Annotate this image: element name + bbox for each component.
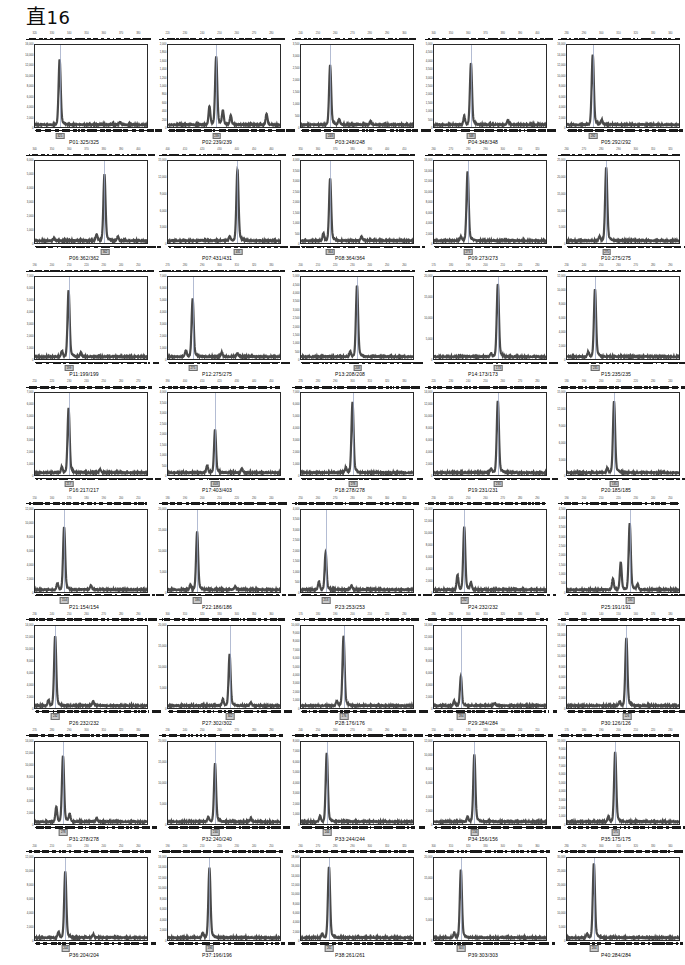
electropherogram-panel[interactable]: 1902002102202302402504,5004,0003,5003,00… xyxy=(552,498,680,612)
ruler-tick-label: 370 xyxy=(84,148,88,151)
trace-plot[interactable] xyxy=(301,392,414,476)
electropherogram-panel[interactable]: 28029030031032033034014,00012,00010,0008… xyxy=(419,614,547,728)
trace-plot[interactable] xyxy=(567,276,680,360)
electropherogram-panel[interactable]: 27028029030031032033014,00012,00010,0008… xyxy=(20,730,148,844)
trace-plot[interactable] xyxy=(434,625,547,709)
y-axis-tick-label: 10,000 xyxy=(291,623,299,626)
trace-plot[interactable] xyxy=(567,44,680,128)
trace-plot[interactable] xyxy=(434,44,547,128)
electropherogram-panel[interactable]: 15016017018019020021012,00010,0008,0006,… xyxy=(419,730,547,844)
trace-plot[interactable] xyxy=(35,625,148,709)
electropherogram-panel[interactable]: 26027028029030031032018,00016,00014,0001… xyxy=(286,846,414,960)
trace-plot[interactable] xyxy=(567,857,680,941)
electropherogram-panel[interactable]: 26027028029030031032016,00014,00012,0001… xyxy=(419,149,547,263)
electropherogram-panel[interactable]: 3403503603703803904005,0004,5004,0003,50… xyxy=(419,33,547,147)
trace-plot[interactable] xyxy=(168,160,281,244)
trace-plot[interactable] xyxy=(35,160,148,244)
trace-plot[interactable] xyxy=(35,857,148,941)
ruler-tick-label: 200 xyxy=(599,380,603,383)
electropherogram-panel[interactable]: 17018019020021022023020,00015,00010,0005… xyxy=(419,265,547,379)
allele-bin-bar xyxy=(516,850,519,853)
electropherogram-panel[interactable]: 17018019020021022023010,0009,0008,0007,0… xyxy=(286,614,414,728)
allele-bin-bar xyxy=(127,362,135,365)
allele-bin-bar xyxy=(114,246,120,249)
electropherogram-panel[interactable]: 2002102202302402502605,0004,5004,0003,50… xyxy=(286,265,414,379)
electropherogram-panel[interactable]: 2702802903003103203307,0006,0005,0004,00… xyxy=(153,265,281,379)
electropherogram-panel[interactable]: 3904004104204304404504,0003,5003,0002,50… xyxy=(153,381,281,495)
electropherogram-panel[interactable]: 23024025026027028029012,00010,0008,0006,… xyxy=(552,265,680,379)
allele-bin-bar xyxy=(606,246,616,249)
trace-plot[interactable] xyxy=(567,509,680,593)
trace-plot[interactable] xyxy=(301,276,414,360)
trace-plot[interactable] xyxy=(168,857,281,941)
ruler-tick-label: 310 xyxy=(102,729,106,732)
electropherogram-panel[interactable]: 20021022023024025026012,00010,0008,0006,… xyxy=(20,846,148,960)
trace-plot[interactable] xyxy=(301,625,414,709)
electropherogram-panel[interactable]: 18019020021022023024020,00015,00010,0005… xyxy=(153,498,281,612)
electropherogram-panel[interactable]: 2402502602702802903008,0007,0006,0005,00… xyxy=(286,730,414,844)
trace-plot[interactable] xyxy=(567,392,680,476)
electropherogram-panel[interactable]: 23024025026027028029014,00012,00010,0008… xyxy=(20,614,148,728)
trace-plot[interactable] xyxy=(168,44,281,128)
trace-plot[interactable] xyxy=(35,741,148,825)
electropherogram-panel[interactable]: 3403503603703803904006,0005,0004,0003,00… xyxy=(20,149,148,263)
trace-plot[interactable] xyxy=(434,509,547,593)
trace-plot[interactable] xyxy=(434,741,547,825)
trace-plot[interactable] xyxy=(35,509,148,593)
trace-plot[interactable] xyxy=(168,276,281,360)
electropherogram-panel[interactable]: 23024025026027028029014,00012,00010,0008… xyxy=(419,498,547,612)
trace-plot[interactable] xyxy=(434,392,547,476)
electropherogram-panel[interactable]: 2202302402502602702802,0001,8001,6001,40… xyxy=(153,33,281,147)
allele-bin-bar xyxy=(248,850,251,853)
electropherogram-panel[interactable]: 26027028029030031032025,00020,00015,0001… xyxy=(552,149,680,263)
electropherogram-panel[interactable]: 18019020021022023024015,00012,0009,0006,… xyxy=(552,381,680,495)
ruler-tick-label: 220 xyxy=(67,845,71,848)
trace-plot[interactable] xyxy=(168,625,281,709)
trace-plot[interactable] xyxy=(301,509,414,593)
ruler-tick-label: 410 xyxy=(183,148,187,151)
electropherogram-panel[interactable]: 40041042043044045046015,00012,0009,0006,… xyxy=(153,149,281,263)
electropherogram-panel[interactable]: 28029030031032033034016,00014,00012,0001… xyxy=(552,33,680,147)
trace-plot[interactable] xyxy=(567,160,680,244)
trace-plot[interactable] xyxy=(301,44,414,128)
allele-bin-bar xyxy=(674,850,684,853)
trace-plot[interactable] xyxy=(567,741,680,825)
ruler-tick-label: 220 xyxy=(165,32,169,35)
trace-plot[interactable] xyxy=(168,509,281,593)
electropherogram-panel[interactable]: 19020021022023024025016,00014,00012,0001… xyxy=(153,846,281,960)
electropherogram-panel[interactable]: 12013014015016017018016,00014,00012,0001… xyxy=(552,614,680,728)
allele-bin-bar xyxy=(676,478,680,481)
electropherogram-panel[interactable]: 15016017018019020021012,00010,0008,0006,… xyxy=(20,498,148,612)
trace-plot[interactable] xyxy=(434,276,547,360)
allele-bin-bar xyxy=(84,270,89,273)
allele-bin-bar xyxy=(96,734,100,737)
electropherogram-panel[interactable]: 23024025026027028029020,00015,00010,0005… xyxy=(153,730,281,844)
electropherogram-panel[interactable]: 2502602702802903003104,0003,5003,0002,50… xyxy=(286,498,414,612)
electropherogram-panel[interactable]: 2102202302402502602707,0006,0005,0004,00… xyxy=(20,381,148,495)
trace-plot[interactable] xyxy=(35,44,148,128)
trace-plot[interactable] xyxy=(434,160,547,244)
trace-plot[interactable] xyxy=(301,741,414,825)
electropherogram-panel[interactable]: 1902002102202302402507,0006,0005,0004,00… xyxy=(20,265,148,379)
electropherogram-panel[interactable]: 30031032033034035036020,00015,00010,0005… xyxy=(153,614,281,728)
allele-bin-bar xyxy=(107,826,109,829)
trace-plot[interactable] xyxy=(301,160,414,244)
electropherogram-panel[interactable]: 30031032033034035036020,00015,00010,0005… xyxy=(419,846,547,960)
y-axis-tick-label: 12,000 xyxy=(557,64,565,67)
trace-plot[interactable] xyxy=(434,857,547,941)
electropherogram-panel[interactable]: 17018019020021022023010,0009,0008,0007,0… xyxy=(552,730,680,844)
y-axis-tick-label: 1,500 xyxy=(559,563,566,566)
trace-plot[interactable] xyxy=(35,276,148,360)
electropherogram-panel[interactable]: 2402502602702802903003,5003,0002,5002,00… xyxy=(286,33,414,147)
trace-plot[interactable] xyxy=(35,392,148,476)
electropherogram-panel[interactable]: 22023024025026027028014,00012,00010,0008… xyxy=(419,381,547,495)
trace-plot[interactable] xyxy=(168,392,281,476)
electropherogram-panel[interactable]: 32033034035036037038016,00014,00012,0001… xyxy=(20,33,148,147)
y-axis-tick-label: 5,000 xyxy=(293,771,300,774)
trace-plot[interactable] xyxy=(567,625,680,709)
electropherogram-panel[interactable]: 3503603703803904004104,0003,5003,0002,50… xyxy=(286,149,414,263)
electropherogram-panel[interactable]: 28029030031032033034030,00025,00020,0001… xyxy=(552,846,680,960)
trace-plot[interactable] xyxy=(168,741,281,825)
electropherogram-panel[interactable]: 2702802903003103203307,0006,0005,0004,00… xyxy=(286,381,414,495)
trace-plot[interactable] xyxy=(301,857,414,941)
